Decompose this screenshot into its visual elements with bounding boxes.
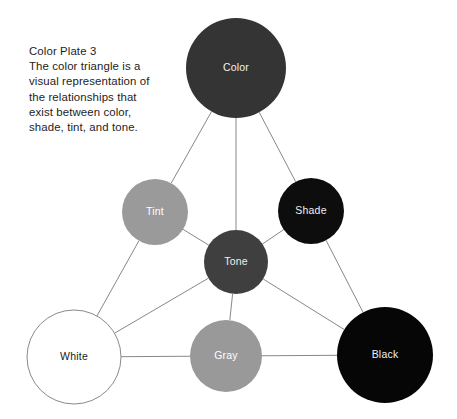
node-black: Black [337,307,433,403]
edge-tint-tone [183,229,209,245]
edge-tone-white [115,278,209,333]
node-color: Color [186,18,286,118]
color-plate-figure: Color Plate 3The color triangle is avisu… [0,0,457,419]
node-layer: ColorTintShadeToneWhiteGrayBlack [27,18,433,404]
node-shade: Shade [278,178,344,244]
edge-shade-black [326,240,363,312]
node-tone: Tone [204,230,268,294]
edge-tint-white [97,241,139,316]
node-label-tint: Tint [146,205,164,217]
edge-color-shade [259,112,295,182]
node-white: White [27,310,121,404]
node-label-tone: Tone [224,255,248,267]
edge-tone-shade [262,230,283,244]
node-label-color: Color [223,61,249,73]
node-gray: Gray [190,320,262,392]
node-label-white: White [60,350,88,362]
edge-color-tint [171,112,211,184]
node-label-shade: Shade [295,204,326,216]
node-label-black: Black [372,348,399,360]
node-label-gray: Gray [214,349,238,361]
edge-tone-gray [230,294,233,320]
node-tint: Tint [122,179,188,245]
color-triangle-diagram: ColorTintShadeToneWhiteGrayBlack [0,0,457,419]
edge-tone-black [263,279,344,330]
